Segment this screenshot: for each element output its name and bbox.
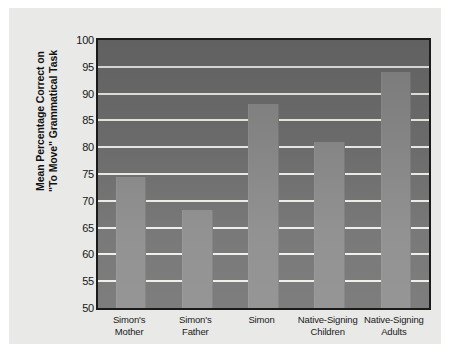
bar [314, 142, 344, 308]
bar [248, 104, 278, 308]
x-axis-tick-label: Native-Signing Adults [354, 314, 433, 338]
y-axis-tick-label: 65 [61, 222, 94, 234]
y-axis-tick-label: 100 [61, 34, 94, 46]
y-axis-tick-labels: 50556065707580859095100 [61, 38, 94, 310]
plot-area [96, 38, 431, 310]
chart-card: Mean Percentage Correct on "To Move" Gra… [9, 8, 441, 344]
gridline [98, 66, 429, 68]
y-axis-tick-label: 75 [61, 168, 94, 180]
y-axis-tick-label: 60 [61, 248, 94, 260]
bar [182, 210, 212, 308]
y-axis-tick-label: 85 [61, 114, 94, 126]
y-axis-title: Mean Percentage Correct on "To Move" Gra… [30, 21, 64, 221]
bar [381, 72, 411, 308]
x-axis-tick-labels: Simon's MotherSimon's FatherSimonNative-… [96, 314, 431, 348]
gridline [98, 93, 429, 95]
y-axis-tick-label: 95 [61, 61, 94, 73]
y-axis-tick-label: 50 [61, 302, 94, 314]
y-axis-tick-label: 80 [61, 141, 94, 153]
y-axis-tick-label: 70 [61, 195, 94, 207]
figure-root: Mean Percentage Correct on "To Move" Gra… [0, 0, 450, 359]
bar [116, 177, 146, 308]
y-axis-tick-label: 55 [61, 275, 94, 287]
y-axis-tick-label: 90 [61, 88, 94, 100]
